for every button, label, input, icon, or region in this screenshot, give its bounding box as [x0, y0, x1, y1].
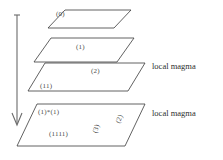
- plane-1-label: (1): [76, 44, 85, 51]
- plane-3-shape: [17, 104, 145, 146]
- annotation-iiii: (1111): [49, 131, 68, 138]
- annotation-ii: (11): [40, 83, 52, 90]
- annotation-i-star-i: (1)*(1): [38, 109, 59, 116]
- local-magma-label-upper: local magma: [152, 62, 196, 71]
- plane-2-label: (2): [91, 68, 100, 75]
- stacked-planes-diagram: (0) (1) (2) (3) (11) (1)*(1) (1111) (2) …: [0, 0, 223, 160]
- local-magma-label-lower: local magma: [152, 109, 196, 118]
- diagram-canvas: [0, 0, 223, 160]
- plane-0-label: (0): [56, 11, 65, 18]
